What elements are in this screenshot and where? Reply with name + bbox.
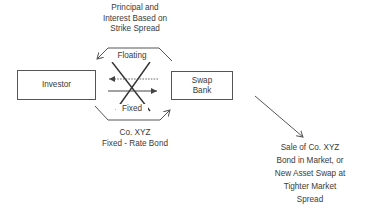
- investor-node: Investor: [17, 70, 96, 100]
- outcome-label: Sale of Co. XYZ Bond in Market, or New A…: [258, 141, 362, 206]
- top-label-line-2: Interest Based on: [85, 14, 185, 25]
- cross-line-2: [116, 62, 150, 110]
- bottom-label-line-1: Co. XYZ: [85, 128, 185, 139]
- outcome-label-line-2: Bond in Market, or: [258, 154, 362, 167]
- floating-label: Floating: [112, 51, 152, 62]
- outcome-arrow: [255, 96, 303, 137]
- top-label-line-1: Principal and: [85, 3, 185, 14]
- bottom-label-line-2: Fixed - Rate Bond: [85, 139, 185, 150]
- investor-label: Investor: [42, 80, 71, 91]
- outcome-label-line-3: New Asset Swap at: [258, 167, 362, 180]
- swap-bank-label-line-1: Swap: [192, 76, 212, 86]
- swap-bank-node: Swap Bank: [171, 71, 233, 100]
- outcome-label-line-1: Sale of Co. XYZ: [258, 141, 362, 154]
- outcome-label-line-4: Tighter Market: [258, 180, 362, 193]
- fixed-label: Fixed: [116, 104, 148, 115]
- top-label-line-3: Strike Spread: [85, 24, 185, 35]
- bottom-label: Co. XYZ Fixed - Rate Bond: [85, 128, 185, 149]
- outcome-label-line-5: Spread: [258, 193, 362, 206]
- top-label: Principal and Interest Based on Strike S…: [85, 3, 185, 35]
- swap-bank-label-line-2: Bank: [192, 86, 212, 96]
